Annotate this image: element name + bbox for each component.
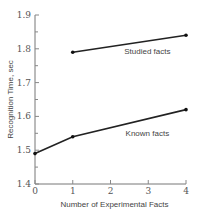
y-ticks: 1.41.51.61.71.81.9	[17, 10, 39, 189]
x-tick-label: 0	[32, 186, 38, 196]
x-tick-label: 2	[108, 186, 114, 196]
series-group: Studied factsKnown facts	[33, 33, 188, 155]
data-point	[184, 33, 188, 37]
y-tick-label: 1.6	[17, 111, 32, 121]
x-tick-label: 3	[145, 186, 151, 196]
series-label: Known facts	[126, 129, 170, 138]
y-tick-label: 1.8	[17, 44, 32, 54]
chart: 1.41.51.61.71.81.9 01234 Studied factsKn…	[0, 0, 198, 216]
y-axis-title: Recognition Time, sec	[6, 60, 15, 139]
data-point	[184, 108, 188, 112]
x-tick-label: 4	[183, 186, 189, 196]
data-point	[33, 152, 37, 156]
x-axis-title: Number of Experimental Facts	[60, 200, 168, 209]
axes	[35, 15, 186, 184]
y-tick-label: 1.4	[17, 179, 32, 189]
y-tick-label: 1.7	[17, 78, 32, 88]
data-point	[71, 135, 75, 139]
data-point	[71, 50, 75, 54]
series-studied-facts: Studied facts	[71, 33, 188, 56]
series-known-facts: Known facts	[33, 108, 188, 156]
x-tick-label: 1	[70, 186, 76, 196]
series-label: Studied facts	[124, 47, 170, 56]
y-tick-label: 1.9	[17, 10, 32, 20]
x-ticks: 01234	[32, 180, 189, 196]
y-tick-label: 1.5	[17, 145, 32, 155]
